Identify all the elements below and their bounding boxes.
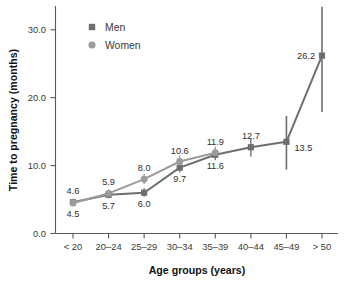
y-tick-label: 20.0	[28, 92, 46, 103]
data-label: 4.6	[67, 186, 80, 196]
data-point-marker	[248, 144, 254, 150]
time-to-pregnancy-line-chart: 0.010.020.030.0 < 2020–2425–2930–3435–39…	[0, 0, 347, 287]
y-axis-title: Time to pregnancy (months)	[7, 49, 19, 191]
x-tick-label: 45–49	[273, 241, 299, 252]
data-point-marker	[70, 200, 77, 207]
data-label: 4.5	[67, 209, 80, 219]
chart-figure: 0.010.020.030.0 < 2020–2425–2930–3435–39…	[0, 0, 347, 287]
data-label: 13.5	[294, 143, 312, 153]
data-label: 6.0	[138, 199, 151, 209]
y-tick-label: 0.0	[33, 228, 46, 239]
legend-label-men: Men	[105, 22, 125, 33]
data-point-marker	[177, 165, 183, 171]
data-label: 12.7	[242, 131, 260, 141]
data-label: 11.6	[207, 161, 224, 171]
y-tick-label: 10.0	[28, 160, 46, 171]
data-label: 5.9	[102, 177, 115, 187]
data-point-marker	[105, 190, 112, 197]
y-tick-label: 30.0	[28, 24, 46, 35]
data-point-marker	[141, 190, 147, 196]
x-tick-label: > 50	[313, 241, 332, 252]
x-tick-label: 40–44	[238, 241, 264, 252]
data-point-marker	[176, 158, 183, 165]
data-point-marker	[212, 149, 219, 156]
x-axis-title: Age groups (years)	[149, 264, 246, 276]
data-label: 26.2	[297, 51, 315, 61]
data-label: 11.9	[207, 137, 224, 147]
legend-marker-men	[89, 24, 95, 30]
data-point-marker	[141, 176, 148, 183]
x-tick-label: 20–24	[96, 241, 122, 252]
x-tick-label: 35–39	[202, 241, 228, 252]
data-label: 9.7	[173, 174, 186, 184]
x-tick-label: 30–34	[167, 241, 193, 252]
data-label: 5.7	[102, 201, 115, 211]
legend-marker-women	[88, 41, 95, 48]
data-label: 10.6	[171, 146, 189, 156]
data-point-marker	[283, 139, 289, 145]
x-tick-label: < 20	[64, 241, 83, 252]
data-point-marker	[319, 52, 325, 58]
legend-label-women: Women	[105, 40, 141, 51]
x-tick-label: 25–29	[131, 241, 157, 252]
data-label: 8.0	[138, 163, 151, 173]
